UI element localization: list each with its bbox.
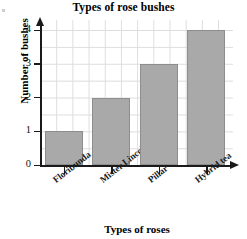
y-axis-tick <box>34 30 41 31</box>
y-axis-line <box>40 24 42 167</box>
x-axis-title: Types of roses <box>41 223 233 235</box>
y-axis-tick <box>34 165 41 166</box>
bar-chart-figure: Types of rose bushes 01234FloribundaMist… <box>0 0 247 239</box>
y-axis-tick <box>34 63 41 64</box>
y-axis-tick <box>34 97 41 98</box>
arrow-right-icon <box>230 161 239 169</box>
y-axis-tick-label: 1 <box>15 124 31 135</box>
arrow-up-icon <box>36 17 44 26</box>
bar <box>140 64 178 165</box>
y-axis-title: Number of bushes <box>18 1 30 121</box>
bar <box>187 30 225 165</box>
y-axis-tick <box>34 131 41 132</box>
y-axis-tick-label: 0 <box>15 158 31 169</box>
chart-title: Types of rose bushes <box>0 1 247 13</box>
